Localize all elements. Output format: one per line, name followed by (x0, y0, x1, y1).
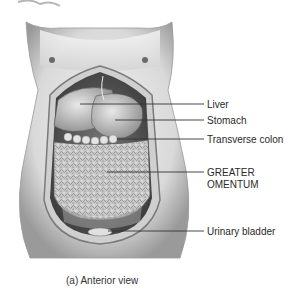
figure-caption: (a) Anterior view (66, 275, 138, 286)
torso-illustration (0, 0, 303, 299)
anatomy-figure: Liver Stomach Transverse colon GREATER O… (0, 0, 303, 299)
label-greater-omentum-line1: GREATER (207, 167, 255, 178)
label-urinary-bladder: Urinary bladder (207, 226, 275, 237)
label-stomach: Stomach (207, 115, 246, 126)
label-liver: Liver (207, 99, 229, 110)
label-greater-omentum-line2: OMENTUM (207, 179, 259, 190)
label-transverse-colon: Transverse colon (207, 134, 283, 145)
